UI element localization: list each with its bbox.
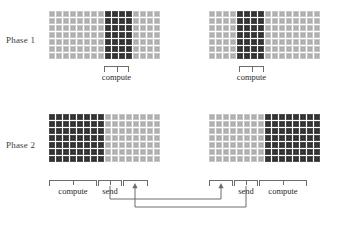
grid-cell — [293, 53, 299, 59]
grid-cell — [286, 32, 292, 38]
grid-cell — [307, 53, 313, 59]
grid-cell — [70, 135, 76, 141]
grid-cell — [300, 114, 306, 120]
grid-cell — [237, 135, 243, 141]
grid-cell — [56, 53, 62, 59]
grid-cell — [223, 149, 229, 155]
grid-cell — [112, 11, 118, 17]
grid-cell — [272, 32, 278, 38]
grid-cell — [63, 32, 69, 38]
grid-cell — [91, 11, 97, 17]
grid-cell — [49, 128, 55, 134]
grid-cell — [70, 156, 76, 162]
grid-cell — [244, 53, 250, 59]
grid-cell — [154, 39, 160, 45]
grid-cell — [258, 32, 264, 38]
grid-cell — [237, 114, 243, 120]
grid-cell — [300, 18, 306, 24]
grid-cell — [279, 156, 285, 162]
grid-cell — [49, 135, 55, 141]
grid-cell — [314, 39, 320, 45]
grid-cell — [63, 149, 69, 155]
grid-cell — [126, 149, 132, 155]
grid-cell — [91, 39, 97, 45]
grid-cell — [77, 149, 83, 155]
grid-cell — [216, 11, 222, 17]
grid-cell — [216, 32, 222, 38]
grid-cell — [140, 142, 146, 148]
grid-cell — [147, 121, 153, 127]
grid-cell — [216, 142, 222, 148]
grid-cell — [105, 135, 111, 141]
grid-cell — [133, 39, 139, 45]
grid-cell — [230, 46, 236, 52]
grid-cell — [154, 53, 160, 59]
grid-cell — [112, 121, 118, 127]
grid-cell — [119, 11, 125, 17]
grid-cell — [154, 121, 160, 127]
grid-cell — [258, 149, 264, 155]
grid-cell — [209, 39, 215, 45]
phase2-left-receive-bracket — [123, 180, 148, 186]
grid-cell — [209, 128, 215, 134]
grid-cell — [77, 128, 83, 134]
grid-cell — [91, 32, 97, 38]
grid-cell — [286, 128, 292, 134]
grid-cell — [126, 128, 132, 134]
grid-cell — [91, 135, 97, 141]
grid-cell — [112, 32, 118, 38]
grid-cell — [56, 121, 62, 127]
grid-cell — [49, 121, 55, 127]
grid-cell — [140, 114, 146, 120]
phase1-left-compute-label: compute — [84, 72, 149, 82]
grid-cell — [119, 114, 125, 120]
grid-cell — [70, 142, 76, 148]
grid-cell — [265, 156, 271, 162]
grid-cell — [209, 135, 215, 141]
grid-cell — [244, 114, 250, 120]
phase1-right-grid — [209, 11, 320, 59]
grid-cell — [105, 32, 111, 38]
grid-cell — [300, 135, 306, 141]
grid-cell — [279, 32, 285, 38]
grid-cell — [223, 156, 229, 162]
grid-cell — [98, 39, 104, 45]
grid-cell — [293, 121, 299, 127]
grid-cell — [91, 18, 97, 24]
grid-cell — [307, 149, 313, 155]
grid-cell — [70, 128, 76, 134]
grid-cell — [209, 53, 215, 59]
grid-cell — [126, 18, 132, 24]
grid-cell — [119, 18, 125, 24]
grid-cell — [77, 39, 83, 45]
grid-cell — [286, 142, 292, 148]
grid-cell — [293, 25, 299, 31]
grid-cell — [216, 18, 222, 24]
grid-cell — [84, 32, 90, 38]
grid-cell — [56, 39, 62, 45]
grid-cell — [251, 32, 257, 38]
grid-cell — [140, 32, 146, 38]
grid-cell — [216, 46, 222, 52]
grid-cell — [265, 142, 271, 148]
grid-cell — [230, 156, 236, 162]
grid-cell — [293, 149, 299, 155]
grid-cell — [56, 18, 62, 24]
grid-cell — [63, 135, 69, 141]
grid-cell — [105, 11, 111, 17]
grid-cell — [91, 128, 97, 134]
grid-cell — [98, 53, 104, 59]
grid-cell — [223, 142, 229, 148]
grid-cell — [140, 121, 146, 127]
grid-cell — [147, 142, 153, 148]
grid-cell — [126, 32, 132, 38]
grid-cell — [119, 121, 125, 127]
grid-cell — [258, 121, 264, 127]
grid-cell — [133, 128, 139, 134]
grid-cell — [272, 156, 278, 162]
grid-cell — [244, 11, 250, 17]
grid-cell — [70, 114, 76, 120]
grid-cell — [63, 128, 69, 134]
grid-cell — [307, 128, 313, 134]
grid-cell — [126, 142, 132, 148]
